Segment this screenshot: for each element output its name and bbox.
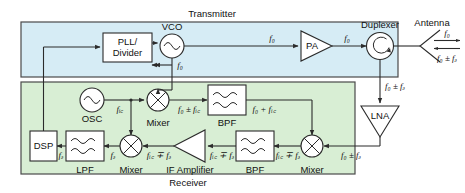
antenna-label: Antenna [414,17,450,28]
signal-mixer-lo-out: f₀ ± fᵢ꜀ [178,104,201,114]
signal-lpf-out: fₔ [59,150,65,160]
bpf-if-block[interactable] [236,131,274,161]
antenna-rx-signal: f₀ ± fₔ [437,53,458,63]
transmitter-title: Transmitter [188,8,236,19]
bpf-if-label: BPF [246,164,265,175]
signal-mixer-rf-out: fᵢ꜀ ∓ fₔ [276,150,301,160]
lpf-label: LPF [76,164,94,175]
signal-pa-out: f₀ [344,33,350,43]
signal-mixer-bb-out: fₔ [111,150,117,160]
if-amplifier-label: IF Amplifier [166,164,214,175]
pll-divider-label-line2: Divider [113,47,143,58]
transmitter-section [21,22,398,77]
signal-osc-out: fᵢ꜀ [117,104,125,114]
bpf-lo-block[interactable] [208,85,246,115]
duplexer-block[interactable] [367,33,394,60]
signal-lna-out: f₀ ± fₔ [341,150,362,160]
duplexer-label: Duplexer [361,19,399,30]
signal-bpf-lo-out: f₀ + fᵢ꜀ [252,104,276,114]
vco-label: VCO [162,21,183,32]
dsp-label: DSP [34,140,54,151]
signal-if-amp-in: fᵢ꜀ ∓ fₔ [210,150,235,160]
signal-duplexer-to-lna: f₀ ± fₔ [385,81,406,91]
signal-if-amp-out: fᵢ꜀ ∓ fₔ [147,150,172,160]
mixer-lo-label: Mixer [146,117,169,128]
junction-osc [129,98,132,101]
receiver-title: Receiver [169,177,207,188]
mixer-rf-label: Mixer [300,164,323,175]
signal-vco-out: f₀ [177,60,183,70]
diagram-canvas: Transmitter Receiver PLL/ Divider VCO f₀… [0,0,465,193]
lna-label: LNA [371,110,390,121]
mixer-baseband-label: Mixer [119,164,142,175]
pa-label: PA [306,40,319,51]
antenna-tx-signal: f₀ [444,28,450,38]
signal-pa-in: f₀ [269,33,275,43]
radar-transceiver-diagram: Transmitter Receiver PLL/ Divider VCO f₀… [0,0,465,193]
lpf-block[interactable] [66,131,104,161]
bpf-lo-label: BPF [218,117,237,128]
osc-label: OSC [82,113,103,124]
pll-divider-label-line1: PLL/ [118,36,138,47]
